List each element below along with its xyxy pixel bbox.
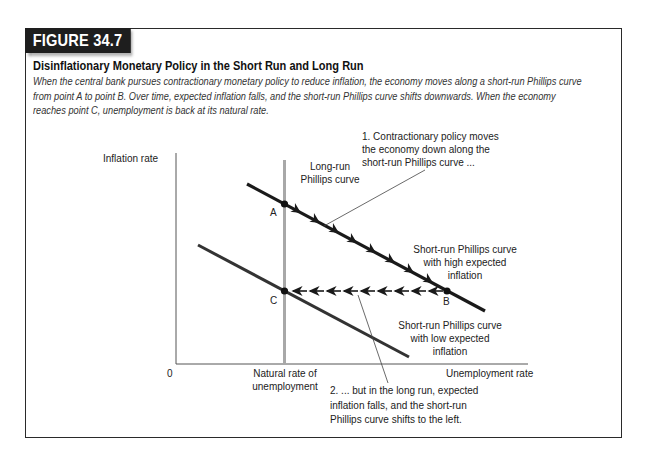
annotation-2: 2. ... but in the long run, expected inf… bbox=[330, 384, 478, 428]
point-b-label: B bbox=[443, 296, 450, 307]
point-a-marker bbox=[281, 200, 288, 207]
x-axis-label: Unemployment rate bbox=[446, 367, 533, 380]
srpc-low-label: Short-run Phillips curve with low expect… bbox=[375, 319, 525, 358]
phillips-curve-diagram bbox=[0, 0, 653, 463]
origin-label: 0 bbox=[167, 367, 173, 380]
y-axis-label: Inflation rate bbox=[103, 152, 158, 165]
annotation-1: 1. Contractionary policy moves the econo… bbox=[362, 130, 499, 169]
point-c-label: C bbox=[270, 295, 277, 306]
point-b-marker bbox=[443, 287, 450, 294]
point-a-label: A bbox=[270, 207, 277, 218]
srpc-high-label: Short-run Phillips curve with high expec… bbox=[395, 243, 535, 282]
point-c-marker bbox=[281, 287, 288, 294]
lrpc-label: Long-run Phillips curve bbox=[290, 160, 370, 186]
natural-rate-label: Natural rate of unemployment bbox=[245, 367, 325, 393]
